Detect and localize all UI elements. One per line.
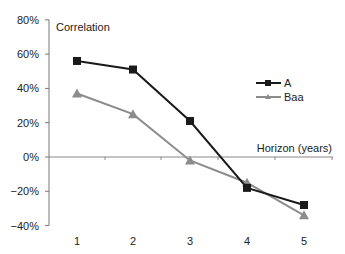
y-tick-label: −40% — [11, 220, 40, 232]
y-tick-label: 80% — [17, 14, 39, 26]
y-tick-label: −20% — [11, 185, 40, 197]
y-tick-label: 0% — [23, 151, 39, 163]
y-axis-label: Correlation — [56, 21, 110, 33]
legend: ABaa — [256, 77, 304, 103]
x-tick-label: 1 — [74, 235, 80, 247]
axes: 80%60%40%20%0%−20%−40%12345 — [11, 14, 333, 247]
x-tick-label: 5 — [301, 235, 307, 247]
square-marker — [73, 57, 81, 65]
chart-canvas: 80%60%40%20%0%−20%−40%12345 ABaa Correla… — [0, 0, 345, 254]
series-group — [72, 57, 309, 219]
x-axis-label: Horizon (years) — [257, 142, 332, 154]
legend-item-a: A — [256, 77, 292, 89]
square-marker — [186, 117, 194, 125]
square-marker — [129, 66, 137, 74]
series-line — [77, 94, 304, 216]
square-marker — [265, 80, 271, 86]
x-tick-label: 2 — [130, 235, 136, 247]
square-marker — [243, 184, 251, 192]
x-tick-label: 4 — [244, 235, 250, 247]
triangle-marker — [72, 89, 82, 98]
correlation-line-chart: 80%60%40%20%0%−20%−40%12345 ABaa Correla… — [0, 0, 345, 254]
legend-label: Baa — [284, 91, 304, 103]
triangle-marker — [299, 210, 309, 219]
x-tick-label: 3 — [187, 235, 193, 247]
legend-label: A — [284, 77, 292, 89]
y-tick-label: 40% — [17, 82, 39, 94]
y-tick-label: 20% — [17, 117, 39, 129]
y-tick-label: 60% — [17, 48, 39, 60]
series-a — [73, 57, 308, 209]
legend-item-baa: Baa — [256, 91, 304, 103]
square-marker — [300, 201, 308, 209]
